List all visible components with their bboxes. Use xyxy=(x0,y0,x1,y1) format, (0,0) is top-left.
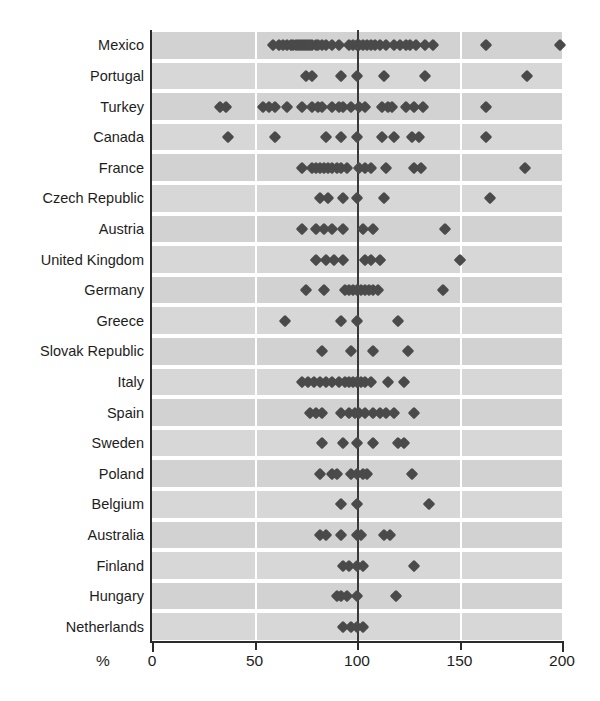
y-axis-label: Poland xyxy=(0,466,144,481)
y-axis-label: Mexico xyxy=(0,38,144,53)
reference-line-100 xyxy=(357,30,359,642)
y-axis-label: Germany xyxy=(0,283,144,298)
x-axis-tick-labels: 050100150200 xyxy=(0,652,600,682)
y-axis-label: Turkey xyxy=(0,99,144,114)
y-axis-label: United Kingdom xyxy=(0,252,144,267)
dot-plot-chart: MexicoPortugalTurkeyCanadaFranceCzech Re… xyxy=(0,0,600,701)
x-axis-tick-label: 100 xyxy=(344,652,370,670)
y-axis-label: Italy xyxy=(0,375,144,390)
x-axis-tick xyxy=(357,641,359,650)
plot-area xyxy=(152,30,562,642)
y-axis-label: Canada xyxy=(0,130,144,145)
x-axis-tick xyxy=(460,641,462,650)
y-axis-label: Spain xyxy=(0,405,144,420)
x-axis-tick xyxy=(562,641,564,652)
gridline-vertical xyxy=(460,30,462,642)
y-axis-line xyxy=(150,30,152,642)
y-axis-label: Belgium xyxy=(0,497,144,512)
y-axis-label: Sweden xyxy=(0,436,144,451)
x-axis-tick xyxy=(255,641,257,650)
y-axis-label: Slovak Republic xyxy=(0,344,144,359)
y-axis-category-labels: MexicoPortugalTurkeyCanadaFranceCzech Re… xyxy=(0,30,144,642)
y-axis-label: Czech Republic xyxy=(0,191,144,206)
y-axis-label: Finland xyxy=(0,558,144,573)
y-axis-label: Greece xyxy=(0,313,144,328)
y-axis-label: Hungary xyxy=(0,589,144,604)
x-axis-unit-label: % xyxy=(96,652,110,670)
x-axis-tick-label: 200 xyxy=(549,652,575,670)
x-axis-tick-label: 150 xyxy=(447,652,473,670)
y-axis-label: Portugal xyxy=(0,69,144,84)
y-axis-label: France xyxy=(0,160,144,175)
x-axis-tick-label: 0 xyxy=(148,652,157,670)
y-axis-label: Australia xyxy=(0,528,144,543)
x-axis-tick xyxy=(152,641,154,652)
y-axis-label: Netherlands xyxy=(0,619,144,634)
gridline-vertical xyxy=(255,30,257,642)
y-axis-label: Austria xyxy=(0,222,144,237)
x-axis-tick-label: 50 xyxy=(246,652,263,670)
